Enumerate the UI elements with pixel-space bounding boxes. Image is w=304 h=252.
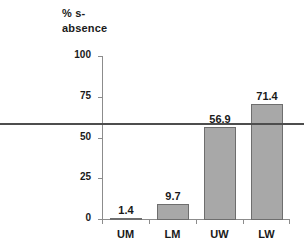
chart-title-line-1: % s- (62, 6, 172, 21)
chart-title-line-2: absence (62, 21, 172, 36)
x-category-label-uw: UW (210, 228, 228, 240)
bar-slot-uw: 56.9 UW (196, 57, 243, 220)
bar-lm[interactable]: 9.7 (157, 204, 189, 220)
y-tick-label-75: 75 (80, 90, 91, 101)
bar-slot-lm: 9.7 LM (149, 57, 196, 220)
y-tick-label-25: 25 (80, 171, 91, 182)
bar-slot-lw: 71.4 LW (243, 57, 290, 220)
bar-value-lw: 71.4 (256, 90, 277, 102)
y-tick-label-0: 0 (85, 212, 91, 223)
bar-lw[interactable]: 71.4 (251, 104, 283, 220)
y-tick-label-100: 100 (74, 49, 91, 60)
x-category-label-lm: LM (165, 228, 181, 240)
bar-value-um: 1.4 (118, 204, 133, 216)
plot-area: 0 25 50 75 100 1.4 UM 9.7 (102, 57, 290, 220)
x-category-label-um: UM (117, 228, 134, 240)
bar-value-lm: 9.7 (165, 190, 180, 202)
x-category-label-lw: LW (258, 228, 275, 240)
bar-uw[interactable]: 56.9 (204, 127, 236, 220)
bar-slot-um: 1.4 UM (102, 57, 149, 220)
bar-um[interactable]: 1.4 (110, 218, 142, 220)
bar-chart: % s- absence 0 25 50 75 100 1.4 (0, 0, 304, 252)
y-tick-label-50: 50 (80, 131, 91, 142)
chart-title: % s- absence (62, 6, 172, 36)
reference-line (0, 123, 304, 125)
